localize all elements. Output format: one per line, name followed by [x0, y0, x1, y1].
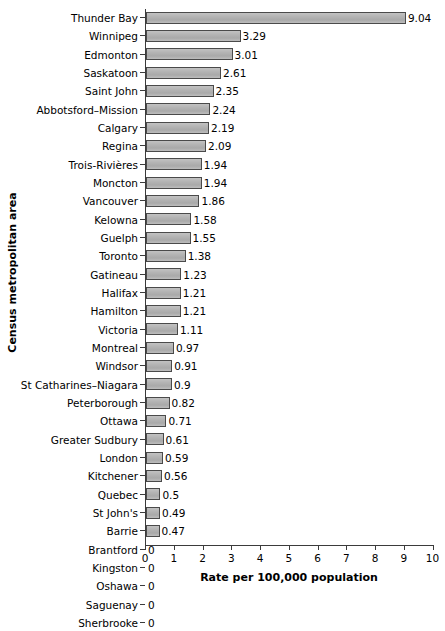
- y-axis-tick: [140, 54, 145, 55]
- x-axis-tick: [375, 545, 376, 550]
- bar-value-label: 2.35: [216, 82, 239, 100]
- bar: [146, 433, 164, 445]
- bar-value-label: 2.09: [208, 137, 231, 155]
- category-label: Barrie: [18, 522, 138, 540]
- category-label: Edmonton: [18, 46, 138, 64]
- y-axis-tick: [140, 622, 145, 623]
- bar-value-label: 0.56: [164, 467, 187, 485]
- y-axis-tick: [140, 200, 145, 201]
- x-axis-tick: [346, 545, 347, 550]
- bar-row: Barrie0.47: [0, 522, 445, 540]
- y-axis-tick: [140, 329, 145, 330]
- bar-row: Winnipeg3.29: [0, 27, 445, 45]
- x-axis-tick-label: 2: [188, 552, 218, 564]
- category-label: Trois-Rivières: [18, 156, 138, 174]
- bar-value-label: 1.38: [188, 247, 211, 265]
- bar: [146, 177, 202, 189]
- y-axis-tick: [140, 109, 145, 110]
- x-axis-title: Rate per 100,000 population: [145, 571, 433, 584]
- bar-row: Guelph1.55: [0, 229, 445, 247]
- category-label: Kingston: [18, 559, 138, 577]
- bar: [146, 397, 170, 409]
- bar-value-label: 3.01: [235, 46, 258, 64]
- category-label: Hamilton: [18, 302, 138, 320]
- bar-row: Greater Sudbury0.61: [0, 431, 445, 449]
- bar-row: St Catharines–Niagara0.9: [0, 376, 445, 394]
- category-label: Guelph: [18, 229, 138, 247]
- bar-row: Edmonton3.01: [0, 46, 445, 64]
- category-label: London: [18, 449, 138, 467]
- y-axis-tick: [140, 17, 145, 18]
- bar-row: Kelowna1.58: [0, 211, 445, 229]
- x-axis-tick-label: 0: [130, 552, 160, 564]
- y-axis-tick: [140, 219, 145, 220]
- y-axis-tick: [140, 567, 145, 568]
- bar-value-label: 1.21: [183, 284, 206, 302]
- bar-value-label: 9.04: [408, 9, 431, 27]
- bar-value-label: 0.61: [166, 431, 189, 449]
- category-label: St John's: [18, 504, 138, 522]
- bar: [146, 232, 191, 244]
- bar: [146, 452, 163, 464]
- y-axis-tick: [140, 384, 145, 385]
- bar-row: London0.59: [0, 449, 445, 467]
- category-label: Greater Sudbury: [18, 431, 138, 449]
- category-label: Peterborough: [18, 394, 138, 412]
- bar-row: Saguenay0: [0, 596, 445, 614]
- category-label: Saskatoon: [18, 64, 138, 82]
- bar: [146, 488, 160, 500]
- bar-value-label: 0.82: [172, 394, 195, 412]
- y-axis-tick: [140, 457, 145, 458]
- category-label: Abbotsford–Mission: [18, 101, 138, 119]
- bar-value-label: 0.49: [162, 504, 185, 522]
- x-axis-tick: [404, 545, 405, 550]
- bar-row: Vancouver1.86: [0, 192, 445, 210]
- y-axis-tick: [140, 494, 145, 495]
- bar-value-label: 0.47: [162, 522, 185, 540]
- bar-value-label: 0.71: [168, 412, 191, 430]
- category-label: Saguenay: [18, 596, 138, 614]
- x-axis-tick: [260, 545, 261, 550]
- x-axis-tick-label: 5: [274, 552, 304, 564]
- bar: [146, 158, 202, 170]
- category-label: St Catharines–Niagara: [18, 376, 138, 394]
- category-label: Kitchener: [18, 467, 138, 485]
- bar-row: Trois-Rivières1.94: [0, 156, 445, 174]
- x-axis-tick: [318, 545, 319, 550]
- bar-value-label: 3.29: [243, 27, 266, 45]
- category-label: Gatineau: [18, 266, 138, 284]
- x-axis-tick-label: 9: [389, 552, 419, 564]
- bar-row: Abbotsford–Mission2.24: [0, 101, 445, 119]
- bar: [146, 213, 191, 225]
- category-label: Quebec: [18, 486, 138, 504]
- bar-value-label: 1.94: [204, 174, 227, 192]
- y-axis-tick: [140, 512, 145, 513]
- bar: [146, 67, 221, 79]
- y-axis-tick: [140, 274, 145, 275]
- category-label: Halifax: [18, 284, 138, 302]
- bar-value-label: 2.19: [211, 119, 234, 137]
- bar-value-label: 1.11: [180, 321, 203, 339]
- y-axis-tick: [140, 604, 145, 605]
- y-axis-tick: [140, 35, 145, 36]
- bar-value-label: 0: [148, 596, 155, 614]
- y-axis-tick: [140, 530, 145, 531]
- bar-value-label: 1.23: [183, 266, 206, 284]
- category-label: Saint John: [18, 82, 138, 100]
- bar: [146, 323, 178, 335]
- bar: [146, 140, 206, 152]
- category-label: Brantford: [18, 541, 138, 559]
- bar-row: Ottawa0.71: [0, 412, 445, 430]
- bar-row: Toronto1.38: [0, 247, 445, 265]
- bar-value-label: 0: [148, 614, 155, 631]
- y-axis-tick: [140, 585, 145, 586]
- bar-row: Peterborough0.82: [0, 394, 445, 412]
- bar-value-label: 2.24: [212, 101, 235, 119]
- x-axis-tick: [231, 545, 232, 550]
- bar: [146, 103, 210, 115]
- bar-value-label: 0.9: [174, 376, 191, 394]
- bar: [146, 470, 162, 482]
- y-axis-tick: [140, 145, 145, 146]
- category-label: Calgary: [18, 119, 138, 137]
